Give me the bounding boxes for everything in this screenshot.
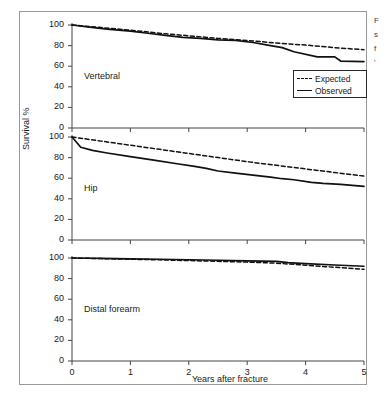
legend-entry-expected: Expected [297,73,363,85]
y-tick-label: 80 [38,40,64,50]
figure-root: F s f ' Survival % Expected Observed Yea… [0,0,388,395]
y-tick-label: 40 [38,314,64,324]
series-observed [72,137,364,186]
series-expected [72,25,364,50]
y-tick-label: 80 [38,152,64,162]
chart-legend: Expected Observed [293,70,367,98]
x-tick-label: 0 [65,367,79,377]
panel-label-vertebral: Vertebral [84,71,120,81]
y-tick-label: 0 [38,234,64,244]
solid-line-icon [297,87,312,95]
y-tick-label: 80 [38,273,64,283]
y-tick-label: 40 [38,81,64,91]
y-tick-label: 0 [38,355,64,365]
y-tick-label: 100 [38,131,64,141]
panel-label-hip: Hip [84,183,98,193]
legend-label-observed: Observed [315,86,352,96]
x-tick-label: 3 [240,367,254,377]
y-tick-label: 60 [38,172,64,182]
x-tick-label: 1 [123,367,137,377]
series-observed [72,25,364,62]
legend-label-expected: Expected [315,74,350,84]
panel-label-distal-forearm: Distal forearm [84,304,140,314]
y-tick-label: 100 [38,252,64,262]
x-tick-label: 2 [182,367,196,377]
legend-entry-observed: Observed [297,85,363,97]
y-tick-label: 40 [38,193,64,203]
y-tick-label: 20 [38,334,64,344]
y-tick-label: 20 [38,101,64,111]
x-tick-label: 4 [299,367,313,377]
x-tick-label: 5 [357,367,371,377]
y-tick-label: 100 [38,19,64,29]
y-tick-label: 60 [38,60,64,70]
y-tick-label: 20 [38,213,64,223]
y-tick-label: 60 [38,293,64,303]
series-observed [72,258,364,266]
dashed-line-icon [297,75,312,83]
